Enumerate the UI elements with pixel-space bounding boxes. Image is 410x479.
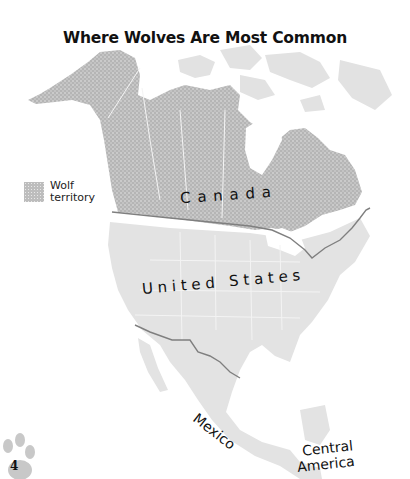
legend-line-2: territory: [50, 192, 95, 204]
map-title: Where Wolves Are Most Common: [0, 29, 410, 47]
page-number: 4: [10, 459, 18, 473]
north-america-map: [0, 0, 410, 479]
wolf-territory-swatch: [24, 182, 44, 202]
paw-print-icon: [3, 433, 35, 479]
legend: Wolf territory: [24, 180, 95, 204]
legend-label: Wolf territory: [50, 180, 95, 204]
